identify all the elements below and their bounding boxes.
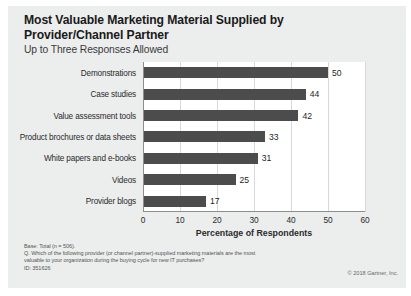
category-label: Demonstrations (81, 68, 136, 77)
copyright-notice: © 2018 Gartner, Inc. (348, 270, 398, 276)
bar-row: Product brochures or data sheets33 (143, 126, 365, 147)
footnote-line-question-1: Q. Which of the following provider (or c… (24, 250, 314, 257)
bar-value-label: 44 (310, 89, 320, 99)
x-tick-label: 60 (360, 215, 369, 225)
bar-row: Demonstrations50 (143, 62, 365, 83)
category-label: Product brochures or data sheets (20, 132, 136, 141)
category-label: White papers and e-books (44, 154, 136, 163)
footnote-line-id: ID: 351626 (24, 265, 314, 272)
bar: 33 (143, 131, 265, 142)
bar-value-label: 33 (269, 132, 279, 142)
bar-value-label: 50 (332, 68, 342, 78)
x-tick-label: 30 (249, 215, 258, 225)
bar-row: Provider blogs17 (143, 191, 365, 212)
x-axis-title: Percentage of Respondents (143, 228, 365, 238)
footnote-line-base: Base: Total (n = 506). (24, 243, 314, 250)
x-tick-label: 20 (212, 215, 221, 225)
bar-row: Videos25 (143, 169, 365, 190)
footnote-line-question-2: valuable to your organization during the… (24, 257, 314, 264)
bar-value-label: 25 (240, 175, 250, 185)
chart-subtitle: Up to Three Responses Allowed (24, 44, 168, 55)
category-label: Provider blogs (86, 197, 136, 206)
x-tick-label: 0 (141, 215, 146, 225)
bar: 44 (143, 89, 306, 100)
bar: 25 (143, 174, 236, 185)
chart-slide: Most Valuable Marketing Material Supplie… (0, 0, 411, 296)
bar-row: Value assessment tools42 (143, 105, 365, 126)
bar-value-label: 31 (262, 153, 272, 163)
x-axis-line (143, 211, 365, 212)
bar: 17 (143, 196, 206, 207)
bar-row: White papers and e-books31 (143, 148, 365, 169)
x-tick-label: 50 (323, 215, 332, 225)
bar-row: Case studies44 (143, 83, 365, 104)
category-label: Videos (112, 175, 136, 184)
bar: 42 (143, 110, 298, 121)
x-tick-label: 40 (286, 215, 295, 225)
y-axis-line (143, 62, 144, 212)
x-tick-label: 10 (175, 215, 184, 225)
plot-canvas: Demonstrations50Case studies44Value asse… (143, 62, 365, 212)
bar-value-label: 17 (210, 196, 220, 206)
footnote-block: Base: Total (n = 506). Q. Which of the f… (24, 243, 314, 272)
category-label: Value assessment tools (53, 111, 136, 120)
slide-inner: Most Valuable Marketing Material Supplie… (8, 6, 406, 288)
gridline (365, 62, 366, 212)
bar: 31 (143, 153, 258, 164)
category-label: Case studies (90, 90, 136, 99)
bar: 50 (143, 67, 328, 78)
chart-plot-area: Demonstrations50Case studies44Value asse… (143, 62, 365, 212)
bar-value-label: 42 (302, 111, 312, 121)
chart-title: Most Valuable Marketing Material Supplie… (24, 13, 364, 42)
